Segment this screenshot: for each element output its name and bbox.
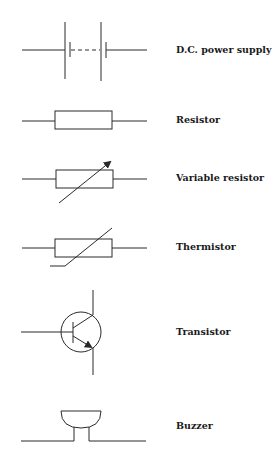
resistor-symbol: [22, 111, 147, 129]
label-variable-resistor: Variable resistor: [176, 172, 264, 184]
label-transistor: Transistor: [176, 326, 230, 338]
label-resistor: Resistor: [176, 114, 220, 126]
label-buzzer: Buzzer: [176, 420, 213, 432]
adjust-arrow: [59, 162, 110, 203]
label-dc-power-supply: D.C. power supply: [176, 44, 271, 56]
transistor-symbol: [21, 290, 101, 375]
symbols-canvas: [0, 0, 276, 463]
thermistor-symbol: [22, 228, 147, 266]
variable-resistor-symbol: [22, 162, 147, 203]
thermistor-diagonal: [50, 228, 112, 266]
dc-power-supply-symbol: [22, 22, 147, 81]
label-thermistor: Thermistor: [176, 241, 236, 253]
buzzer-symbol: [21, 411, 146, 441]
collector-link: [73, 315, 93, 328]
thermistor-body: [55, 239, 112, 257]
resistor-body: [55, 111, 112, 129]
variable-resistor-body: [56, 170, 113, 188]
buzzer-bowl: [61, 411, 101, 428]
emitter-arrow: [73, 336, 91, 347]
